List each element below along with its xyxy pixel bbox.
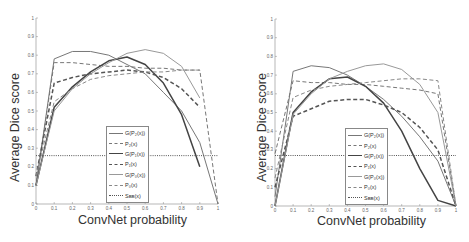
y-tick-label: 0.8	[267, 54, 274, 59]
x-tick-label: 0.7	[399, 208, 406, 213]
plot-right: 00.10.20.30.40.50.60.70.80.9100.10.20.30…	[235, 0, 469, 242]
chart-left: 00.10.20.30.40.50.60.70.80.9100.10.20.30…	[0, 0, 234, 242]
x-tick-label: 0.9	[197, 206, 204, 211]
legend-item: G(P₂(x))	[348, 130, 384, 140]
x-tick-label: 0.8	[417, 208, 424, 213]
legend-item: P₁(x)	[109, 159, 145, 169]
thick-solid-line-icon	[109, 153, 123, 154]
legend-item: G(P₁(x))	[348, 151, 384, 161]
dashed-line-icon	[348, 187, 362, 188]
x-tick-label: 0.2	[308, 208, 315, 213]
x-tick-label: 0.7	[160, 206, 167, 211]
y-tick-label: 0.3	[28, 146, 35, 151]
x-axis-label: ConvNet probability	[78, 213, 187, 227]
legend: G(P₂(x)) P₂(x) G(P₁(x)) P₁(x) G(P₀(x)) P…	[345, 128, 388, 205]
legend: G(P₂(x)) P₂(x) G(P₁(x)) P₁(x) G(P₀(x)) P…	[106, 126, 149, 203]
y-tick-label: 0.6	[28, 90, 35, 95]
legend-item: Sʙʙ(x)	[109, 190, 145, 200]
x-tick-label: 0.1	[290, 208, 297, 213]
y-tick-label: 1	[270, 17, 273, 22]
x-tick-label: 0.3	[87, 206, 94, 211]
y-tick-label: 0.9	[28, 34, 35, 39]
x-tick-label: 0.9	[435, 208, 442, 213]
y-tick-label: 0.5	[28, 109, 35, 114]
y-axis-label: Average Dice score	[8, 73, 22, 182]
x-tick-label: 0	[274, 208, 277, 213]
x-tick-label: 0.4	[344, 208, 351, 213]
legend-item: P₁(x)	[348, 161, 384, 171]
y-tick-label: 0.4	[28, 127, 35, 132]
solid-line-icon	[348, 135, 362, 136]
dotted-line-icon	[348, 197, 362, 198]
x-tick-label: 0.5	[362, 208, 369, 213]
legend-item: P₂(x)	[348, 140, 384, 150]
thick-dashed-line-icon	[348, 166, 362, 167]
legend-item: P₀(x)	[109, 180, 145, 190]
y-tick-label: 0.2	[28, 164, 35, 169]
legend-item: P₀(x)	[348, 182, 384, 192]
x-tick-label: 0	[35, 206, 38, 211]
dotted-line-icon	[109, 195, 123, 196]
dashed-line-icon	[109, 185, 123, 186]
x-axis-label: ConvNet probability	[317, 214, 426, 228]
legend-item: G(P₁(x))	[109, 149, 145, 159]
y-tick-label: 0.9	[267, 35, 274, 40]
solid-line-icon	[348, 176, 362, 177]
x-tick-label: 1	[217, 206, 220, 211]
y-tick-label: 0.7	[28, 71, 35, 76]
x-tick-label: 0.6	[142, 206, 149, 211]
y-tick-label: 0.1	[28, 183, 35, 188]
thick-dashed-line-icon	[109, 164, 123, 165]
x-tick-label: 0.1	[51, 206, 58, 211]
legend-item: P₂(x)	[109, 138, 145, 148]
x-tick-label: 0.8	[178, 206, 185, 211]
legend-item: G(P₀(x))	[109, 170, 145, 180]
dashed-line-icon	[348, 145, 362, 146]
legend-item: G(P₂(x))	[109, 128, 145, 138]
y-tick-label: 1	[31, 16, 34, 21]
y-tick-label: 0.1	[267, 185, 274, 190]
x-tick-label: 0.2	[69, 206, 76, 211]
dashed-line-icon	[109, 143, 123, 144]
y-axis-label: Average Dice score	[255, 73, 269, 182]
thick-solid-line-icon	[348, 155, 362, 156]
x-tick-label: 0.6	[380, 208, 387, 213]
solid-line-icon	[109, 133, 123, 134]
x-tick-label: 0.5	[124, 206, 131, 211]
x-tick-label: 1	[455, 208, 458, 213]
x-tick-label: 0.3	[326, 208, 333, 213]
legend-item: G(P₀(x))	[348, 172, 384, 182]
legend-item: Sʙʙ(x)	[348, 192, 384, 202]
y-tick-label: 0.8	[28, 53, 35, 58]
solid-line-icon	[109, 174, 123, 175]
plot-left: 00.10.20.30.40.50.60.70.80.9100.10.20.30…	[0, 0, 234, 242]
chart-right: 00.10.20.30.40.50.60.70.80.9100.10.20.30…	[235, 0, 469, 242]
x-tick-label: 0.4	[106, 206, 113, 211]
